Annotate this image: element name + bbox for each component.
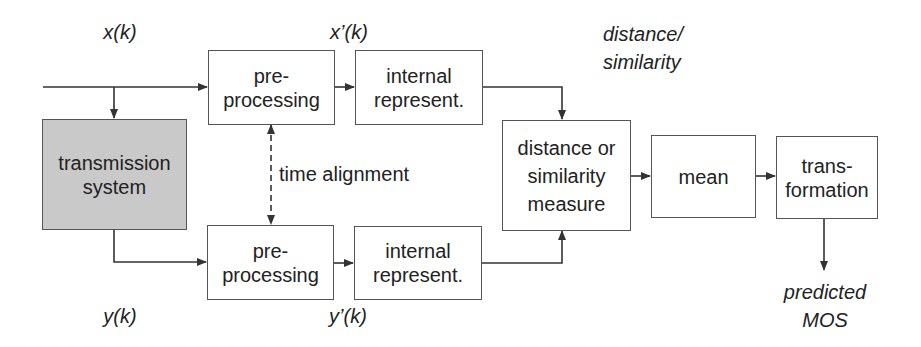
signal-label-y-prime: y’(k) <box>329 302 367 330</box>
distance-similarity-label-line2: similarity <box>603 48 681 76</box>
block-label: represent. <box>373 263 463 287</box>
preprocessing-top-block: pre- processing <box>208 50 335 125</box>
internal-top-to-distance-line <box>482 87 562 119</box>
transformation-block: trans- formation <box>776 136 878 219</box>
signal-label-x-prime: x’(k) <box>330 18 368 46</box>
block-label: distance or <box>518 134 616 162</box>
block-label: pre- <box>223 64 320 88</box>
signal-label-x: x(k) <box>103 18 136 46</box>
block-label: represent. <box>374 88 464 112</box>
block-label: similarity <box>518 162 616 190</box>
block-label: processing <box>223 88 320 112</box>
block-label: measure <box>518 190 616 218</box>
preprocessing-bottom-block: pre- processing <box>207 225 334 300</box>
block-label: mean <box>678 165 728 189</box>
distance-measure-block: distance or similarity measure <box>502 120 631 231</box>
block-label: pre- <box>222 239 319 263</box>
internal-representation-top-block: internal represent. <box>355 50 483 125</box>
mean-block: mean <box>651 135 756 218</box>
block-label: formation <box>785 178 868 202</box>
transmission-output-line <box>114 229 206 262</box>
signal-label-y: y(k) <box>103 302 136 330</box>
internal-bottom-to-distance-line <box>481 231 562 263</box>
internal-representation-bottom-block: internal represent. <box>354 226 482 300</box>
block-label: system <box>58 175 170 199</box>
predicted-mos-label-line1: predicted <box>784 278 866 306</box>
block-label: processing <box>222 263 319 287</box>
block-label: trans- <box>785 154 868 178</box>
block-label: internal <box>373 239 463 263</box>
predicted-mos-label-line2: MOS <box>802 306 848 334</box>
time-alignment-label: time alignment <box>279 162 409 186</box>
block-label: internal <box>374 64 464 88</box>
block-label: transmission <box>58 151 170 175</box>
transmission-system-block: transmission system <box>42 119 187 230</box>
distance-similarity-label-line1: distance/ <box>603 20 683 48</box>
